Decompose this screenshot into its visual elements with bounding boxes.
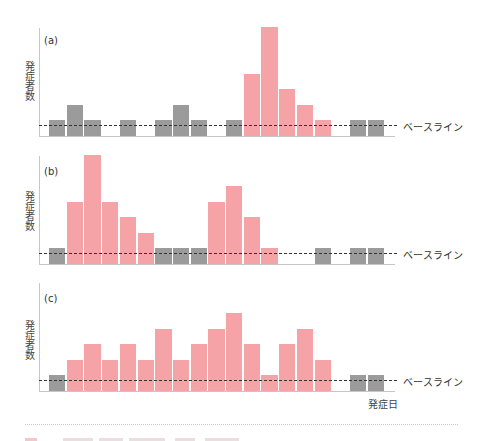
baseline-bar: [155, 248, 171, 264]
x-axis-label: 発症日: [368, 396, 398, 411]
y-axis-line: [39, 283, 40, 391]
outbreak-bar: [315, 360, 331, 391]
baseline-bar: [173, 248, 189, 264]
baseline-bar: [67, 105, 83, 136]
outbreak-bar: [208, 329, 224, 391]
outbreak-bar: [102, 202, 118, 264]
chart-panel-b: (b) 発症者数 ベースライン: [0, 156, 484, 268]
chart-panel-a: (a) 発症者数 ベースライン: [0, 28, 484, 140]
outbreak-bar: [261, 248, 277, 264]
outbreak-bar: [279, 344, 295, 391]
baseline-bar: [191, 248, 207, 264]
outbreak-bar: [279, 89, 295, 136]
baseline-label: ベースライン: [403, 119, 463, 134]
baseline-bar: [120, 120, 136, 136]
outbreak-bar: [155, 329, 171, 391]
outbreak-bar: [297, 105, 313, 136]
outbreak-bar: [84, 155, 100, 264]
outbreak-bar: [244, 74, 260, 136]
dotted-separator: [25, 424, 458, 425]
outbreak-bar: [173, 360, 189, 391]
baseline-bar: [368, 248, 384, 264]
y-axis-line: [39, 28, 40, 136]
x-axis-line: [39, 264, 395, 265]
baseline-bar: [49, 248, 65, 264]
chart-panel-c: (c) 発症者数 ベースライン: [0, 283, 484, 395]
outbreak-bar: [138, 360, 154, 391]
baseline-bar: [49, 120, 65, 136]
baseline-bar: [350, 375, 366, 391]
bar-series: [49, 28, 389, 136]
outbreak-bar: [261, 375, 277, 391]
outbreak-bar: [315, 120, 331, 136]
outbreak-bar: [297, 329, 313, 391]
baseline-bar: [49, 375, 65, 391]
y-axis-label: 発症者数: [22, 61, 33, 101]
baseline-bar: [226, 120, 242, 136]
baseline-dashed-line: [39, 125, 397, 126]
outbreak-bar: [138, 233, 154, 264]
x-axis-line: [39, 391, 395, 392]
outbreak-bar: [67, 202, 83, 264]
outbreak-bar: [102, 360, 118, 391]
baseline-label: ベースライン: [403, 247, 463, 262]
outbreak-bar: [191, 344, 207, 391]
outbreak-bar: [67, 360, 83, 391]
baseline-bar: [173, 105, 189, 136]
bar-series: [49, 283, 389, 391]
baseline-bar: [368, 375, 384, 391]
bar-series: [49, 156, 389, 264]
x-axis-line: [39, 136, 395, 137]
outbreak-bar: [120, 217, 136, 264]
outbreak-bar: [244, 344, 260, 391]
outbreak-bar: [244, 217, 260, 264]
baseline-bar: [350, 120, 366, 136]
baseline-label: ベースライン: [403, 374, 463, 389]
baseline-bar: [84, 120, 100, 136]
y-axis-label: 発症者数: [22, 320, 33, 360]
baseline-bar: [155, 120, 171, 136]
baseline-dashed-line: [39, 253, 397, 254]
y-axis-label: 発症者数: [22, 191, 33, 231]
outbreak-bar: [120, 344, 136, 391]
outbreak-bar: [208, 202, 224, 264]
y-axis-line: [39, 156, 40, 264]
baseline-dashed-line: [39, 380, 397, 381]
baseline-bar: [191, 120, 207, 136]
baseline-bar: [368, 120, 384, 136]
outbreak-bar: [261, 27, 277, 136]
outbreak-bar: [84, 344, 100, 391]
baseline-bar: [315, 248, 331, 264]
baseline-bar: [350, 248, 366, 264]
